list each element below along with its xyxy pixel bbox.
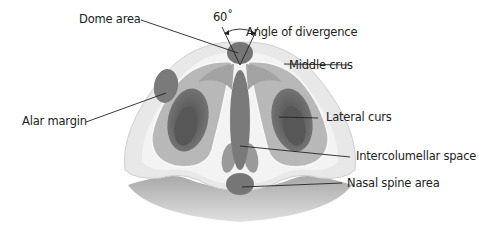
leader-dome-area [141, 20, 238, 53]
label-angle-value: 60˚ [213, 10, 233, 24]
label-dome-area: Dome area [79, 12, 141, 26]
label-nasal-spine-area: Nasal spine area [347, 176, 440, 190]
nasal-anatomy-diagram: Dome area 60˚ Angle of divergence Middle… [0, 0, 479, 228]
label-middle-crus: Middle crus [289, 58, 353, 72]
columella-shape [230, 70, 250, 170]
nasal-spine-shape [226, 173, 254, 195]
label-lateral-curs: Lateral curs [326, 110, 392, 124]
label-intercolumellar-space: Intercolumellar space [356, 149, 476, 163]
label-alar-margin: Alar margin [22, 114, 87, 128]
label-angle-of-divergence: Angle of divergence [246, 25, 357, 39]
